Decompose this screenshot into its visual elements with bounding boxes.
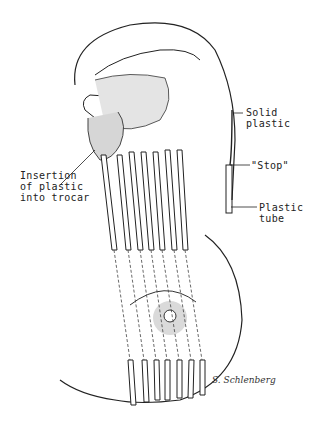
plastic-line [230,110,232,165]
fingertips [88,112,124,160]
label-insertion: Insertion of plastic into trocar [20,170,90,203]
plastic-tube [226,165,232,213]
label-plastic-tube: Plastic tube [259,202,303,224]
finger-curl [95,50,200,75]
label-stop: "Stop" [251,160,289,171]
label-solid-plastic: Solid plastic [246,107,290,129]
nipple [164,310,176,322]
artist-signature: S. Schlenberg [212,375,276,385]
trocar-hidden-segments [114,250,202,360]
